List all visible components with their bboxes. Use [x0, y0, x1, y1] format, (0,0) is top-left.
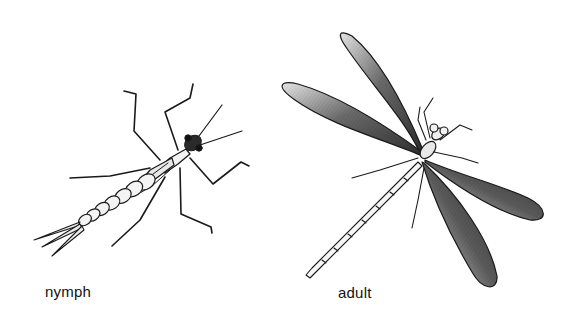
adult-drawing — [282, 33, 543, 287]
adult-head — [429, 124, 448, 142]
nymph-antennae — [196, 105, 242, 145]
nymph-label: nymph — [45, 283, 91, 300]
adult-abdomen — [306, 162, 422, 278]
illustration-canvas — [0, 0, 577, 329]
damselfly-illustration: nymph adult — [0, 0, 577, 329]
nymph-caudal-gills — [34, 222, 84, 256]
nymph-drawing — [34, 84, 249, 256]
nymph-abdomen — [76, 171, 158, 229]
adult-label: adult — [338, 284, 372, 301]
